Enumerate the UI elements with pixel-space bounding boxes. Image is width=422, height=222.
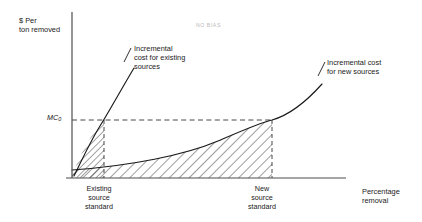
y-axis-title: $ Per ton removed bbox=[19, 16, 60, 34]
existing-curve-annotation: Incremental cost for existing sources bbox=[134, 44, 185, 71]
existing-note-leader bbox=[124, 48, 131, 62]
new-curve-annotation: Incremental cost for new sources bbox=[327, 58, 381, 76]
mc0-tick-subscript: 0 bbox=[58, 116, 61, 122]
no-bias-watermark: NO BIAS bbox=[196, 22, 221, 28]
figure-canvas bbox=[0, 0, 422, 222]
mc0-tick-label: MC0 bbox=[47, 114, 61, 123]
x-category-existing-source-standard: Existing source standard bbox=[68, 185, 130, 211]
x-axis-title: Percentage removal bbox=[362, 187, 400, 205]
mc0-tick-base: MC bbox=[47, 113, 58, 122]
x-category-new-source-standard: New source standard bbox=[231, 185, 293, 211]
abatement-cost-figure: $ Per ton removed Incremental cost for e… bbox=[0, 0, 422, 222]
new-note-leader bbox=[318, 62, 325, 76]
